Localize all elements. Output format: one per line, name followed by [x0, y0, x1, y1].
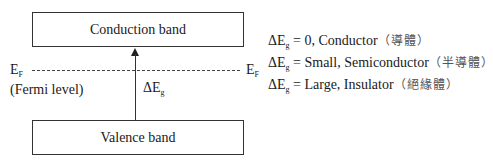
legend-symbol: ΔE [268, 55, 286, 70]
fermi-symbol: E [246, 62, 255, 77]
legend-condition: = Small, Semiconductor [290, 55, 429, 70]
band-gap-arrow-line [135, 54, 136, 120]
fermi-level-dashed-line [32, 70, 240, 71]
fermi-level-label-left: EF [10, 63, 23, 82]
legend-chinese: （半導體） [429, 56, 493, 70]
conduction-band-box: Conduction band [32, 12, 244, 47]
legend-chinese: （絕緣體） [394, 78, 459, 92]
material-classification-legend: ΔEg = 0, Conductor（導體） ΔEg = Small, Semi… [268, 32, 493, 98]
fermi-level-label-right: EF [246, 63, 259, 82]
valence-band-box: Valence band [32, 120, 244, 155]
fermi-symbol: E [10, 62, 19, 77]
band-gap-symbol: ΔE [143, 80, 161, 95]
fermi-level-description: (Fermi level) [10, 82, 83, 98]
valence-band-label: Valence band [100, 130, 175, 146]
legend-item-semiconductor: ΔEg = Small, Semiconductor（半導體） [268, 54, 493, 76]
legend-condition: = 0, Conductor [290, 33, 378, 48]
legend-item-conductor: ΔEg = 0, Conductor（導體） [268, 32, 493, 54]
legend-symbol: ΔE [268, 77, 286, 92]
legend-symbol: ΔE [268, 33, 286, 48]
band-gap-label: ΔEg [143, 80, 165, 97]
fermi-subscript: F [19, 70, 23, 79]
fermi-subscript: F [255, 70, 259, 79]
legend-chinese: （導體） [378, 34, 430, 48]
legend-condition: = Large, Insulator [290, 77, 394, 92]
legend-item-insulator: ΔEg = Large, Insulator（絕緣體） [268, 76, 493, 98]
band-gap-subscript: g [161, 88, 165, 97]
conduction-band-label: Conduction band [90, 22, 186, 38]
